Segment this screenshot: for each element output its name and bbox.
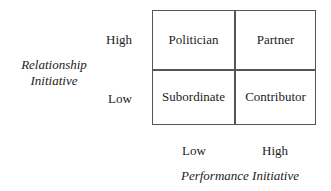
x-tick-low: Low	[182, 143, 206, 159]
quadrant-subordinate: Subordinate	[153, 70, 234, 124]
quadrant-contributor: Contributor	[235, 70, 316, 124]
x-tick-high: High	[262, 143, 288, 159]
y-axis-title-line2: Initiative	[14, 73, 94, 89]
x-axis-title: Performance Initiative	[180, 168, 300, 184]
quadrant-partner: Partner	[235, 11, 316, 69]
y-tick-low: Low	[108, 91, 132, 107]
quadrant-politician: Politician	[153, 11, 234, 69]
quadrant-grid: Politician Partner Subordinate Contribut…	[152, 10, 316, 125]
y-tick-high: High	[106, 32, 132, 48]
y-axis-title-line1: Relationship	[14, 57, 94, 73]
y-axis-title: Relationship Initiative	[14, 57, 94, 89]
